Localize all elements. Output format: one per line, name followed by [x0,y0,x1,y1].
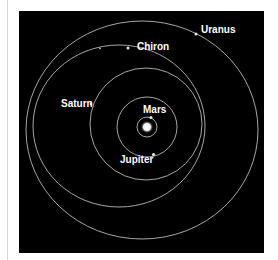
mars-label: Mars [143,104,167,115]
mars-dot [150,116,153,119]
chiron-orbit [33,45,205,207]
chiron-dot [127,47,130,50]
jupiter-label: Jupiter [120,154,153,165]
uranus-dot [195,33,198,36]
saturn-label: Saturn [61,98,93,109]
chiron-label: Chiron [137,41,169,52]
sun-icon [141,121,154,134]
chiron-orbit-tick [99,48,101,50]
uranus-label: Uranus [201,24,236,35]
orbit-diagram: Mars Jupiter Saturn Chiron Uranus [0,0,278,260]
